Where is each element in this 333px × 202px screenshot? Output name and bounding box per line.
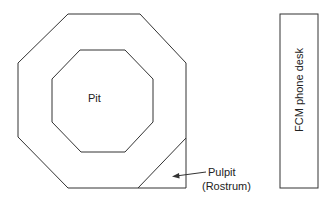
rostrum-label: (Rostrum) <box>202 181 251 192</box>
floor-plan-diagram <box>0 0 333 202</box>
outer-octagon-floor <box>18 14 186 188</box>
arrow-icon <box>172 172 206 179</box>
pit-label: Pit <box>88 93 101 104</box>
phone-desk-label: FCM phone desk <box>293 48 305 132</box>
pulpit-label: Pulpit <box>208 167 236 178</box>
pulpit-divider-line <box>138 138 186 188</box>
inner-octagon-pit <box>52 50 153 152</box>
